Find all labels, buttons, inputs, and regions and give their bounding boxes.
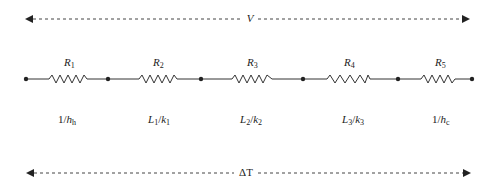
right-arrowhead-icon (462, 15, 470, 23)
node-2-icon (106, 77, 110, 81)
resistor-r2-icon (139, 75, 177, 83)
node-3-icon (199, 77, 203, 81)
right-arrowhead-icon (463, 169, 471, 177)
resistor-label-r4: R4 (343, 56, 355, 70)
resistor-label-r2: R2 (152, 56, 164, 70)
resistor-r3-icon (232, 75, 272, 83)
bottom-span-arrow: ΔT (26, 166, 471, 178)
node-5-icon (396, 77, 400, 81)
resistor-value-r1: 1/hh (58, 113, 76, 127)
resistor-r4-icon (327, 75, 370, 83)
top-span-arrow: V (25, 12, 470, 24)
resistor-value-r2: L1/k1 (147, 113, 170, 127)
thermal-circuit-diagram: V R1 R2 R3 R4 R5 1/hh L1/k1 L2/k2 L3/k3 … (0, 0, 490, 189)
resistor-label-r5: R5 (434, 56, 446, 70)
node-6-icon (470, 77, 474, 81)
resistor-r5-icon (421, 75, 455, 83)
node-4-icon (301, 77, 305, 81)
node-1-icon (24, 77, 28, 81)
span-label-v: V (247, 12, 255, 24)
resistor-value-r3: L2/k2 (239, 113, 262, 127)
resistor-value-r5: 1/hc (432, 113, 450, 127)
left-arrowhead-icon (26, 169, 34, 177)
resistor-r1-icon (49, 75, 87, 83)
resistor-label-r1: R1 (63, 56, 75, 70)
resistor-label-r3: R3 (246, 56, 258, 70)
resistor-value-r4: L3/k3 (341, 113, 364, 127)
left-arrowhead-icon (25, 15, 33, 23)
span-label-delta-t: ΔT (239, 166, 253, 178)
